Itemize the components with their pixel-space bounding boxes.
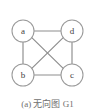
graph-node-label-a: a <box>21 26 25 36</box>
graph-node-label-d: d <box>70 26 75 36</box>
graph-node-label-c: c <box>70 70 74 80</box>
graph-node-a: a <box>12 20 34 42</box>
graph-node-c: c <box>61 64 83 86</box>
figure-undirected-graph-g1: adbc (a) 无向图 G1 <box>0 0 95 111</box>
graph-node-b: b <box>12 64 34 86</box>
figure-caption: (a) 无向图 G1 <box>0 99 95 110</box>
graph-node-label-b: b <box>21 70 26 80</box>
graph-node-d: d <box>61 20 83 42</box>
graph-canvas: adbc <box>0 0 95 111</box>
